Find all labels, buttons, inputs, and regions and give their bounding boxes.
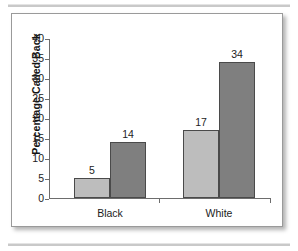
y-tick-mark (45, 59, 49, 60)
y-tick-15: 15 (49, 139, 53, 140)
y-tick-mark (45, 199, 49, 200)
x-tick-group-separator (159, 199, 160, 203)
plot-area: 40 35 30 25 20 (49, 39, 271, 199)
figure-page: Percentage Called Back 40 35 30 (0, 0, 298, 251)
y-tick-20: 20 (49, 119, 53, 120)
y-tick-25: 25 (49, 99, 53, 100)
y-tick-40: 40 (49, 39, 53, 40)
y-tick-10: 10 (49, 159, 53, 160)
y-tick-35: 35 (49, 59, 53, 60)
y-tick-mark (45, 159, 49, 160)
bar-white-dark[interactable]: 34 (219, 62, 255, 198)
x-axis-line (49, 198, 271, 199)
y-tick-mark (45, 179, 49, 180)
bar-value-label: 34 (231, 48, 243, 60)
y-tick-mark (45, 139, 49, 140)
bar-white-light[interactable]: 17 (183, 130, 219, 198)
chart-figure-box: Percentage Called Back 40 35 30 (11, 13, 283, 227)
y-tick-30: 30 (49, 79, 53, 80)
bar-chart: Percentage Called Back 40 35 30 (12, 14, 282, 226)
x-tick-axis-end (270, 199, 271, 203)
y-tick-label: 40 (32, 32, 44, 44)
y-tick-label: 0 (38, 192, 44, 204)
bar-value-label: 5 (89, 164, 95, 176)
bottom-horizontal-rule (8, 243, 290, 246)
y-tick-5: 5 (49, 179, 53, 180)
bar-value-label: 14 (122, 128, 134, 140)
x-category-label-white: White (206, 207, 233, 219)
y-tick-label: 15 (32, 132, 44, 144)
y-tick-0: 0 (49, 199, 53, 200)
y-tick-label: 25 (32, 92, 44, 104)
y-tick-label: 10 (32, 152, 44, 164)
bar-black-light[interactable]: 5 (74, 178, 110, 198)
y-tick-mark (45, 39, 49, 40)
y-tick-label: 30 (32, 72, 44, 84)
y-tick-mark (45, 119, 49, 120)
x-category-label-black: Black (97, 207, 123, 219)
y-tick-label: 5 (38, 172, 44, 184)
y-tick-mark (45, 99, 49, 100)
y-tick-mark (45, 79, 49, 80)
bar-value-label: 17 (195, 116, 207, 128)
y-tick-label: 20 (32, 112, 44, 124)
y-tick-label: 35 (32, 52, 44, 64)
top-horizontal-rule (8, 4, 290, 7)
bar-black-dark[interactable]: 14 (110, 142, 146, 198)
